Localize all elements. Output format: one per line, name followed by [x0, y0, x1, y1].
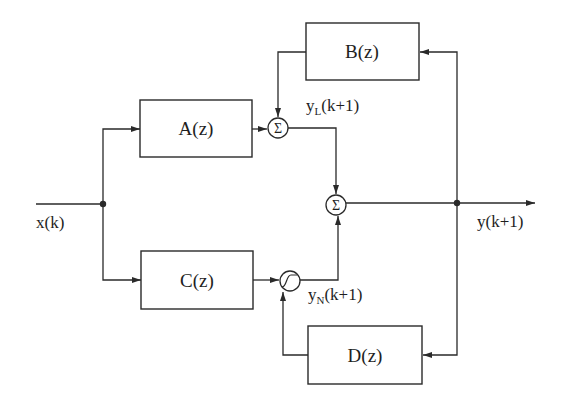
sigma-icon: Σ [274, 121, 282, 136]
block-d-label: D(z) [348, 345, 383, 367]
feedback-to-d [423, 203, 457, 355]
block-a: A(z) [140, 100, 252, 157]
wire-to-a [103, 129, 140, 204]
wire-d-to-nonlinearity [283, 292, 308, 355]
block-diagram: A(z) B(z) C(z) D(z) Σ yL(k+1) Σ [0, 0, 563, 403]
output-signal-label: y(k+1) [477, 212, 523, 231]
sum-junction-linear: Σ [268, 118, 288, 138]
wire-to-c [103, 204, 141, 280]
block-b: B(z) [306, 23, 419, 80]
feedback-to-b [420, 52, 457, 203]
wire-b-to-sum [278, 52, 306, 117]
sigma-icon: Σ [332, 198, 340, 213]
block-c: C(z) [141, 251, 253, 309]
block-a-label: A(z) [179, 118, 214, 140]
wire-yl-to-sum-output [288, 128, 336, 194]
signal-label-yn: yN(k+1) [308, 285, 362, 306]
sum-junction-output: Σ [326, 195, 346, 215]
block-c-label: C(z) [180, 270, 214, 292]
wire-yn-to-sum-output [300, 216, 338, 280]
block-b-label: B(z) [345, 41, 379, 63]
signal-label-yl: yL(k+1) [306, 96, 359, 117]
block-d: D(z) [308, 326, 422, 384]
nonlinearity-junction [280, 271, 300, 291]
input-signal-label: x(k) [36, 213, 64, 232]
